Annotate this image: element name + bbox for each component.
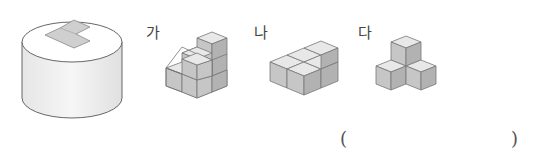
answer-close-paren: )	[511, 128, 518, 149]
answer-open-paren: (	[340, 128, 347, 149]
answer-input[interactable]	[352, 128, 507, 150]
